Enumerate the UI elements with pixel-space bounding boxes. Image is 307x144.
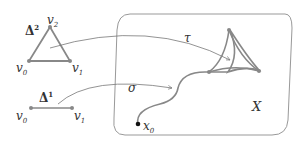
vertex-v0-1: [29, 106, 33, 110]
vertex-v1-label-1: v1: [74, 109, 85, 125]
tau-map-arrow: [50, 36, 230, 61]
diagram-canvas: Δ2 v2 v0 v1 Δ1 v0 v1 τ σ x0 X: [0, 0, 307, 144]
tau-image-left-edge: [209, 30, 229, 72]
base-point-label: x0: [143, 119, 155, 135]
simplex-2-label: Δ2: [25, 23, 39, 38]
simplex-1: [29, 106, 74, 110]
tau-label: τ: [184, 31, 191, 45]
tau-image-triangle: [228, 30, 259, 72]
vertex-v0-2: [27, 59, 31, 63]
vertex-v1-label-2: v1: [72, 61, 83, 77]
base-point-x0: [136, 122, 141, 127]
space-x-label: X: [251, 99, 262, 114]
simplex-1-label: Δ1: [39, 90, 53, 105]
vertex-v0-label-1: v0: [16, 109, 28, 125]
vertex-v0-label-2: v0: [16, 61, 28, 77]
space-x-region: [114, 14, 292, 135]
vertex-v2-label: v2: [47, 13, 59, 29]
sigma-image-path: [138, 72, 228, 124]
sigma-label: σ: [128, 81, 137, 95]
